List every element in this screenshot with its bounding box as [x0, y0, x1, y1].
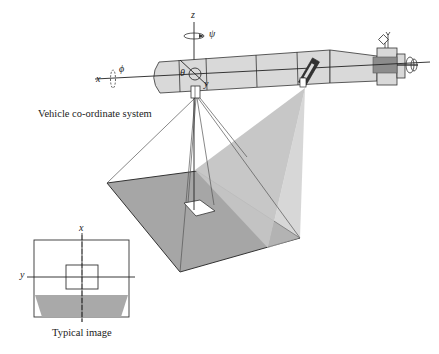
roll-label: ϕ	[119, 63, 124, 74]
inset-x-label: x	[79, 222, 83, 233]
x-axis-label: x	[96, 73, 100, 84]
typical-image-inset	[27, 233, 135, 322]
typical-image-caption: Typical image	[52, 327, 112, 338]
pitch-label: θ	[180, 67, 185, 78]
z-axis-label: z	[191, 9, 195, 20]
diagram-canvas: z ψ x ϕ θ y Vehicle co-ordinate system x…	[0, 0, 439, 354]
yaw-label: ψ	[209, 28, 215, 39]
downward-camera	[191, 86, 200, 98]
y-axis-label: y	[204, 78, 208, 89]
roll-indicator	[111, 70, 116, 88]
vehicle-coordinate-caption: Vehicle co-ordinate system	[38, 108, 152, 119]
antenna-icon	[379, 32, 390, 48]
inset-y-label: y	[20, 269, 24, 280]
